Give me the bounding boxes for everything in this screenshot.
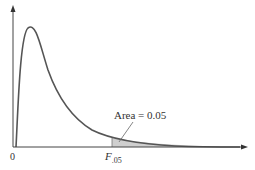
critical-value-subscript: .05 [112,156,122,165]
critical-value-label: F.05 [104,150,122,165]
area-label: Area = 0.05 [114,109,167,121]
f-distribution-chart: Area = 0.05 0 F.05 [0,0,255,170]
origin-label: 0 [10,151,15,162]
x-axis-arrow-icon [241,145,248,150]
area-leader-line [119,122,133,142]
y-axis-arrow-icon [11,5,16,12]
